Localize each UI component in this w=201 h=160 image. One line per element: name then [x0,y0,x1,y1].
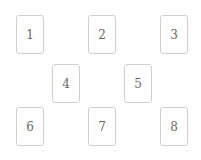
card-label: 1 [26,29,34,41]
card-7[interactable]: 7 [88,107,116,146]
card-2[interactable]: 2 [88,15,116,54]
card-label: 6 [26,121,34,133]
card-8[interactable]: 8 [160,107,188,146]
card-4[interactable]: 4 [52,64,80,103]
card-1[interactable]: 1 [16,15,44,54]
card-5[interactable]: 5 [124,64,152,103]
card-label: 3 [170,29,178,41]
card-6[interactable]: 6 [16,107,44,146]
card-board: 1 2 3 4 5 6 7 8 [0,0,201,160]
card-3[interactable]: 3 [160,15,188,54]
card-label: 5 [134,78,142,90]
card-label: 4 [62,78,70,90]
card-label: 2 [98,29,106,41]
card-label: 7 [98,121,106,133]
card-label: 8 [170,121,178,133]
